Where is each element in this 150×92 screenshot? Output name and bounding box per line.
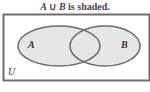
venn-diagram: A B U	[0, 0, 150, 92]
universe-label: U	[8, 66, 16, 77]
set-b-label: B	[120, 39, 128, 50]
set-a-label: A	[27, 39, 35, 50]
